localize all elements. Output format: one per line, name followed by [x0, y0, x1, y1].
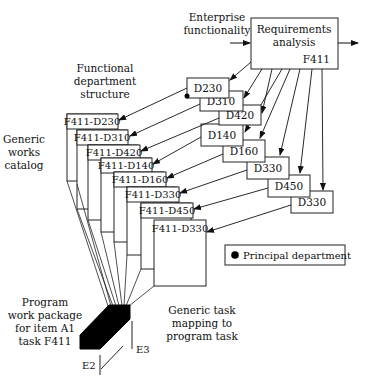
work-package-block [80, 305, 130, 349]
department-label: D160 [230, 145, 258, 157]
legend: Principal department [225, 245, 351, 265]
functional-line2: department [74, 75, 137, 87]
generic-works-catalog-label: Generic works catalog [3, 133, 45, 171]
requirements-code: F411 [303, 53, 330, 65]
mapping-line3: program task [166, 330, 238, 342]
requirements-analysis-box: Requirements analysis F411 [251, 18, 338, 69]
catalog-label: F411-D330 [125, 189, 182, 200]
work-package-line1: Program [22, 296, 68, 308]
department-box: D140 [201, 124, 243, 146]
functional-line3: structure [80, 88, 130, 100]
filled-circle-icon [231, 251, 239, 259]
catalog-line2: works [8, 146, 40, 158]
catalog-box: F411-D330 [152, 220, 209, 286]
requirements-mapping-diagram: Enterprise functionality Requirements an… [0, 0, 369, 389]
catalog-label: F411-D160 [112, 174, 169, 185]
e3-label: E3 [136, 344, 150, 355]
catalog-label: F411-D420 [86, 147, 143, 158]
catalog-line1: Generic [3, 133, 45, 145]
department-label: D450 [275, 180, 303, 192]
department-label: D330 [254, 162, 282, 174]
work-package-label: Program work package for item A1 task F4… [8, 296, 82, 347]
work-package-line3: for item A1 [15, 322, 75, 334]
catalog-line3: catalog [4, 159, 43, 171]
requirements-line2: analysis [273, 36, 316, 48]
catalog-label: F411-D330 [152, 223, 209, 234]
e2-label: E2 [82, 360, 96, 371]
generic-task-mapping-label: Generic task mapping to program task [166, 304, 238, 342]
catalog-label: F411-D140 [98, 160, 155, 171]
catalog-label: F411-D230 [64, 116, 121, 127]
legend-label: Principal department [243, 250, 351, 261]
catalog-boxes: F411-D230 F411-D310 F411-D420 F411-D140 … [64, 114, 209, 286]
work-package-line2: work package [8, 309, 82, 321]
principal-department-marker [185, 94, 190, 99]
mapping-line2: mapping to [172, 317, 232, 329]
department-box-principal: D230 [187, 78, 229, 98]
work-package-line4: task F411 [19, 335, 72, 347]
enterprise-functionality-line1: Enterprise [189, 11, 246, 23]
mapping-line1: Generic task [168, 304, 236, 316]
department-label: D230 [194, 82, 222, 94]
department-boxes: D330 D450 D330 D160 D140 D420 D310 D230 [187, 78, 333, 213]
department-label: D330 [298, 196, 326, 208]
functional-structure-label: Functional department structure [74, 62, 137, 100]
requirements-line1: Requirements [257, 23, 332, 35]
catalog-label: F411-D450 [139, 205, 196, 216]
enterprise-functionality-label: Enterprise functionality [183, 11, 250, 36]
e2-axis [101, 346, 123, 369]
department-label: D140 [208, 129, 236, 141]
catalog-label: F411-D310 [74, 132, 131, 143]
functional-line1: Functional [77, 62, 135, 74]
enterprise-functionality-line2: functionality [183, 24, 250, 36]
